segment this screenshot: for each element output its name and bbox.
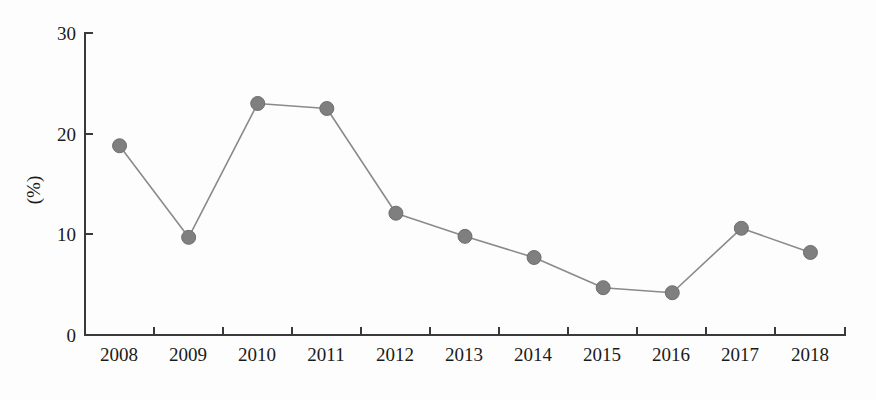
data-point: [389, 206, 403, 220]
line-chart: 30 20 10 0 (%) 2008 2009 2010 20: [0, 0, 876, 400]
y-axis-title: (%): [23, 176, 45, 204]
x-tick-label-2011: 2011: [307, 344, 344, 365]
x-tick-label-2016: 2016: [652, 344, 690, 365]
x-tick-label-2015: 2015: [583, 344, 621, 365]
x-tick-label-2012: 2012: [376, 344, 414, 365]
y-axis-tick-labels: 30 20 10 0: [57, 23, 76, 346]
y-axis-ticks: [85, 33, 93, 335]
data-point: [596, 281, 610, 295]
data-point: [527, 250, 541, 264]
x-tick-label-2009: 2009: [169, 344, 207, 365]
y-tick-label-10: 10: [57, 224, 76, 245]
data-point: [113, 139, 127, 153]
x-tick-label-2010: 2010: [238, 344, 276, 365]
data-point: [320, 102, 334, 116]
data-point: [458, 229, 472, 243]
x-axis-tick-labels: 2008 2009 2010 2011 2012 2013 2014 2015 …: [100, 344, 829, 365]
x-tick-label-2018: 2018: [791, 344, 829, 365]
x-tick-label-2017: 2017: [721, 344, 759, 365]
y-tick-label-30: 30: [57, 23, 76, 44]
data-point: [251, 96, 265, 110]
x-tick-label-2008: 2008: [100, 344, 138, 365]
x-tick-label-2013: 2013: [445, 344, 483, 365]
y-tick-label-0: 0: [67, 325, 77, 346]
data-point: [734, 221, 748, 235]
series-markers: [113, 96, 818, 299]
x-tick-label-2014: 2014: [514, 344, 553, 365]
data-point: [182, 230, 196, 244]
x-axis-ticks: [85, 327, 845, 335]
data-point: [803, 245, 817, 259]
y-tick-label-20: 20: [57, 124, 76, 145]
chart-page: 30 20 10 0 (%) 2008 2009 2010 20: [0, 0, 876, 400]
data-point: [665, 286, 679, 300]
series-line: [120, 103, 811, 292]
